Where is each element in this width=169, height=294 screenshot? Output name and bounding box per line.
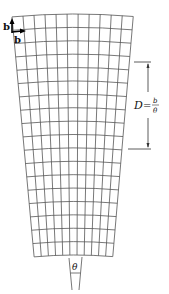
grid-arc-line [34, 255, 113, 257]
grid-arc-line [24, 148, 122, 150]
grid-arc-line [12, 14, 133, 17]
fan-grid [12, 14, 133, 257]
fraction-numerator: b [153, 97, 158, 105]
grid-arc-line [29, 201, 117, 203]
distance-label: D [133, 99, 143, 112]
grid-arc-line [18, 81, 127, 84]
grid-arc-line [23, 135, 123, 137]
grid-arc-line [22, 121, 124, 123]
fraction-denominator: θ [153, 107, 158, 115]
grid-arc-line [19, 94, 126, 97]
grid-arc-line [16, 54, 130, 57]
grid-arc-line [27, 175, 120, 177]
angle-label: θ [72, 262, 78, 272]
grid-arc-line [32, 228, 115, 230]
grid-arc-line [21, 108, 126, 111]
grid-arc-line [33, 242, 114, 244]
burgers-label-horizontal: b [14, 34, 21, 45]
lattice-diagram: b b D = b θ θ [0, 0, 169, 294]
grid-arc-line [26, 161, 121, 163]
equals-sign: = [143, 100, 151, 111]
grid-arc-line [28, 188, 118, 190]
grid-arc-line [17, 68, 129, 71]
burgers-label-vertical: b [3, 21, 10, 32]
grid-arc-line [13, 27, 132, 30]
grid-arc-line [30, 215, 116, 217]
grid-arc-line [14, 41, 131, 44]
